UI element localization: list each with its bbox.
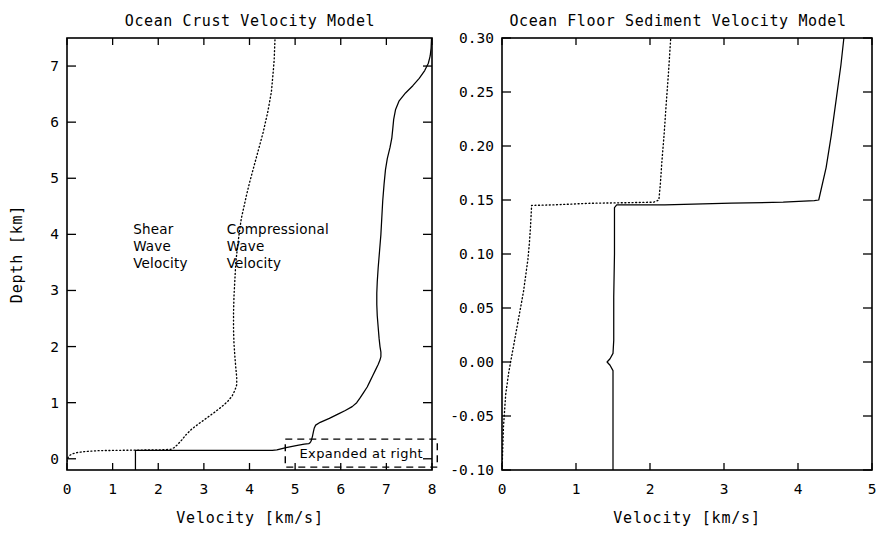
xtick-label: 4 <box>794 481 803 497</box>
ocean-floor-sediment-panel: Ocean Floor Sediment Velocity Model 0123… <box>440 0 885 545</box>
xtick-label: 3 <box>720 481 729 497</box>
ytick-label: 0 <box>50 451 59 467</box>
ocean-crust-title: Ocean Crust Velocity Model <box>125 12 375 30</box>
compressional-wave-label: CompressionalWaveVelocity <box>227 221 329 271</box>
xtick-label: 8 <box>428 481 437 497</box>
ocean-floor-sediment-axis-ticks: 012345-0.10-0.050.000.050.100.150.200.25… <box>450 30 876 497</box>
xtick-label: 5 <box>291 481 300 497</box>
ocean-crust-chart: Ocean Crust Velocity Model 0123456780123… <box>0 0 445 545</box>
ocean-crust-xaxis-title: Velocity [km/s] <box>176 509 323 527</box>
xtick-label: 2 <box>154 481 163 497</box>
ocean-floor-sediment-plot-frame <box>502 38 872 470</box>
ytick-label: 1 <box>50 395 59 411</box>
xtick-label: 2 <box>646 481 655 497</box>
xtick-label: 3 <box>200 481 209 497</box>
compressional-wave-velocity-curve <box>135 38 431 470</box>
ytick-label: 0.10 <box>459 246 494 262</box>
ytick-label: 0.30 <box>459 30 494 46</box>
ytick-label: 6 <box>50 114 59 130</box>
shear-wave-label: ShearWaveVelocity <box>133 221 188 271</box>
xtick-label: 5 <box>868 481 877 497</box>
xtick-label: 1 <box>572 481 581 497</box>
xtick-label: 1 <box>108 481 117 497</box>
ocean-crust-yaxis-title: Depth [km] <box>8 205 26 303</box>
expanded-at-right-label: Expanded at right <box>300 446 424 461</box>
xtick-label: 6 <box>336 481 345 497</box>
ytick-label: 0.15 <box>459 192 494 208</box>
ocean-floor-sediment-title: Ocean Floor Sediment Velocity Model <box>509 12 846 30</box>
ytick-label: 3 <box>50 282 59 298</box>
ocean-floor-sediment-chart: Ocean Floor Sediment Velocity Model 0123… <box>440 0 885 545</box>
ocean-floor-sediment-xaxis-title: Velocity [km/s] <box>613 509 760 527</box>
ytick-label: -0.10 <box>450 462 494 478</box>
ytick-label: 0.20 <box>459 138 494 154</box>
ytick-label: 7 <box>50 58 59 74</box>
ocean-floor-sediment-curves <box>502 38 844 470</box>
ytick-label: 0.00 <box>459 354 494 370</box>
ocean-crust-panel: Ocean Crust Velocity Model 0123456780123… <box>0 0 445 545</box>
ytick-label: 4 <box>50 226 59 242</box>
ytick-label: -0.05 <box>450 408 494 424</box>
xtick-label: 0 <box>498 481 507 497</box>
xtick-label: 0 <box>63 481 72 497</box>
xtick-label: 7 <box>382 481 391 497</box>
ytick-label: 0.25 <box>459 84 494 100</box>
shear-wave-velocity-curve <box>502 38 671 470</box>
ytick-label: 2 <box>50 339 59 355</box>
ocean-crust-annotations: ShearWaveVelocityCompressionalWaveVeloci… <box>133 221 437 467</box>
xtick-label: 4 <box>245 481 254 497</box>
compressional-wave-velocity-curve <box>607 38 844 470</box>
ytick-label: 5 <box>50 170 59 186</box>
velocity-model-figure: Ocean Crust Velocity Model 0123456780123… <box>0 0 885 545</box>
ytick-label: 0.05 <box>459 300 494 316</box>
